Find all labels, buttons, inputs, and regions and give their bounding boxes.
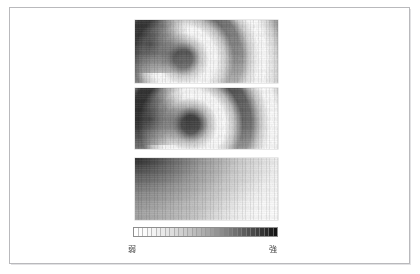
intensity-colorbar — [133, 227, 278, 237]
interference-fringe-panel-middle — [135, 88, 278, 149]
intensity-gradient-panel-bottom — [135, 158, 278, 220]
colorbar-segment — [274, 228, 278, 236]
raster-noise-bottom — [135, 158, 278, 220]
colorbar-label-high: 強 — [269, 246, 277, 254]
figure-root: 弱 強 — [0, 0, 420, 274]
colorbar-label-low: 弱 — [128, 246, 136, 254]
figure-border-frame: 弱 強 — [9, 7, 410, 264]
raster-noise-middle — [135, 88, 278, 149]
raster-noise-top — [135, 20, 278, 83]
interference-fringe-panel-top — [135, 20, 278, 83]
